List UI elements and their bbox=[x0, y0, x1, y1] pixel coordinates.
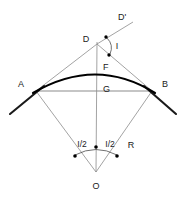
label-d-prime: D' bbox=[118, 12, 126, 22]
angle-i-arc-marker bbox=[107, 38, 111, 54]
label-f: F bbox=[103, 62, 109, 72]
curve-geometry-figure: D' D I F G A B R I/2 I/2 O bbox=[0, 0, 184, 201]
label-i-half-left: I/2 bbox=[77, 139, 87, 149]
tangent-leg-da bbox=[36, 44, 97, 91]
label-i-half-right: I/2 bbox=[105, 139, 115, 149]
center-axis-line-od bbox=[96, 42, 97, 172]
radius-line-oa bbox=[36, 91, 96, 172]
label-d: D bbox=[83, 34, 90, 44]
label-angle-i: I bbox=[116, 41, 119, 51]
label-a: A bbox=[18, 79, 24, 89]
angle-i-dot-lower bbox=[107, 53, 110, 56]
label-b: B bbox=[162, 79, 168, 89]
geometry-diagram-canvas: D' D I F G A B R I/2 I/2 O bbox=[0, 0, 184, 201]
angle-half-dot-left bbox=[73, 154, 77, 158]
angle-half-dot-center bbox=[94, 145, 98, 149]
angle-i-dot-upper bbox=[104, 35, 107, 38]
label-r: R bbox=[128, 140, 135, 150]
angle-half-dot-right bbox=[115, 154, 119, 158]
radius-line-ob bbox=[96, 91, 152, 172]
curve-arc-afb bbox=[33, 75, 155, 94]
label-g: G bbox=[103, 84, 110, 94]
label-o: O bbox=[92, 181, 99, 191]
